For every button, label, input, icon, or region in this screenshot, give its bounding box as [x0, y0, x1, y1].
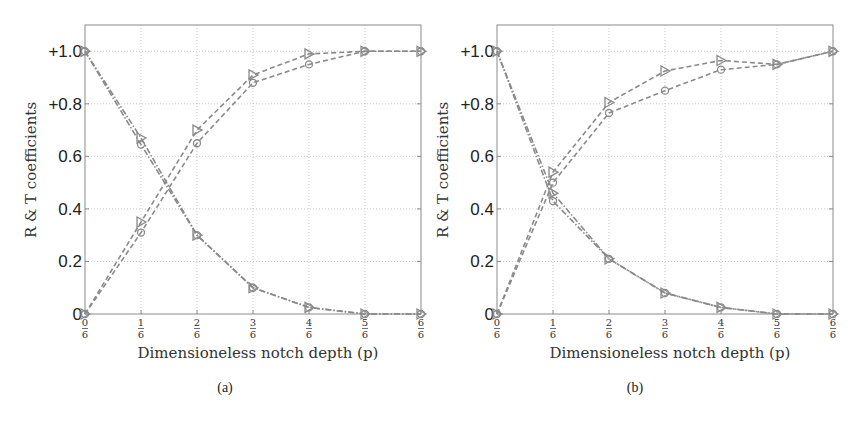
figure: 00.20.40.6+0.8+1.006162636465666Dimensio…: [0, 0, 865, 422]
x-tick-denominator: 6: [194, 329, 200, 340]
y-tick-label: +1.0: [460, 42, 494, 61]
y-tick-label: 0.4: [58, 200, 82, 219]
y-tick-label: 0.4: [470, 200, 494, 219]
y-axis-label: R & T coefficients: [434, 102, 452, 238]
x-tick-denominator: 6: [138, 329, 144, 340]
x-tick-denominator: 6: [418, 329, 424, 340]
x-tick-denominator: 6: [774, 329, 780, 340]
circle-marker-icon: [550, 198, 557, 205]
chart-panel-a: 00.20.40.6+0.8+1.006162636465666Dimensio…: [22, 25, 426, 396]
x-tick-denominator: 6: [606, 329, 612, 340]
x-tick-denominator: 6: [830, 329, 836, 340]
panel-caption: (a): [217, 380, 233, 396]
y-tick-label: +0.8: [48, 95, 82, 114]
y-tick-label: 0.6: [58, 147, 82, 166]
y-tick-label: +0.8: [460, 95, 494, 114]
x-tick-numerator: 4: [718, 317, 724, 328]
x-tick-numerator: 2: [194, 317, 200, 328]
x-tick-numerator: 3: [250, 317, 256, 328]
x-tick-denominator: 6: [494, 329, 500, 340]
x-axis-label: Dimensioneless notch depth (p): [550, 344, 791, 362]
x-tick-denominator: 6: [550, 329, 556, 340]
y-tick-label: 0.6: [470, 147, 494, 166]
chart-panel-b: 00.20.40.6+0.8+1.006162636465666Dimensio…: [434, 25, 838, 396]
x-tick-numerator: 1: [138, 317, 144, 328]
x-tick-numerator: 3: [662, 317, 668, 328]
x-tick-denominator: 6: [662, 329, 668, 340]
x-tick-numerator: 1: [550, 317, 556, 328]
x-tick-denominator: 6: [362, 329, 368, 340]
y-axis-label: R & T coefficients: [22, 102, 40, 238]
x-tick-numerator: 4: [306, 317, 312, 328]
x-tick-denominator: 6: [250, 329, 256, 340]
x-tick-denominator: 6: [306, 329, 312, 340]
y-tick-label: +1.0: [48, 42, 82, 61]
circle-marker-icon: [550, 179, 557, 186]
x-axis-label: Dimensioneless notch depth (p): [138, 344, 379, 362]
x-tick-denominator: 6: [82, 329, 88, 340]
y-tick-label: 0.2: [470, 252, 494, 271]
x-tick-denominator: 6: [718, 329, 724, 340]
y-tick-label: 0.2: [58, 252, 82, 271]
x-tick-numerator: 2: [606, 317, 612, 328]
panel-caption: (b): [627, 380, 644, 396]
